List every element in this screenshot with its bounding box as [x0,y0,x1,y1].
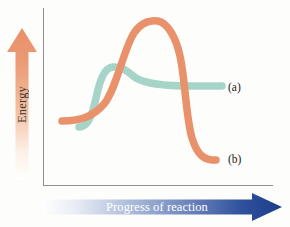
curve-b-path [62,21,216,160]
energy-diagram-figure: Energy Progress of reaction (a) (b) [0,0,290,227]
curve-a-label: (a) [228,81,241,93]
curves-layer [0,0,290,227]
curve-b-label: (b) [228,153,241,165]
curve-a-path [79,67,222,127]
